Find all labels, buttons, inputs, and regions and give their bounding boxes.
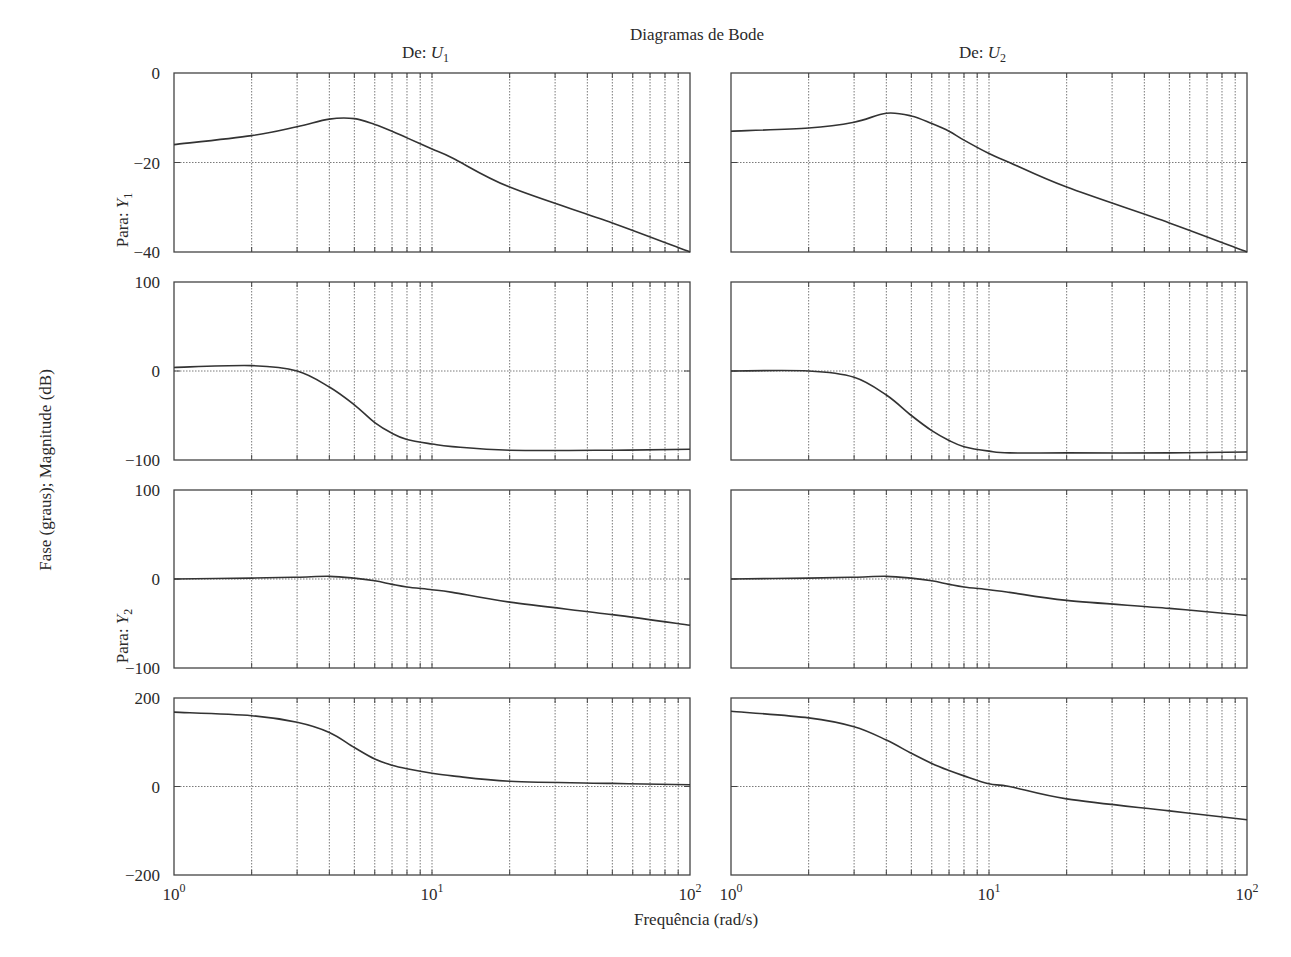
column-label: De: U1 <box>402 43 449 65</box>
bode-chart: 0−20−401000−1001000−1002000−200100101102… <box>0 0 1291 957</box>
y-tick-label: −40 <box>133 243 160 262</box>
x-axis-label: Frequência (rad/s) <box>634 910 758 930</box>
y-axis-label: Fase (graus); Magnitude (dB) <box>36 369 56 571</box>
y-tick-label: −20 <box>133 154 160 173</box>
x-tick-label: 100 <box>163 881 186 904</box>
x-tick-label: 102 <box>1236 881 1259 904</box>
y-tick-label: 100 <box>135 273 161 292</box>
row-label: Para: Y2 <box>113 609 135 664</box>
y-tick-label: −100 <box>125 451 160 470</box>
x-tick-label: 100 <box>720 881 743 904</box>
x-tick-label: 101 <box>421 881 444 904</box>
y-tick-label: −200 <box>125 866 160 885</box>
y-tick-label: 0 <box>152 778 161 797</box>
column-label: De: U2 <box>959 43 1006 65</box>
y-tick-label: 0 <box>152 570 161 589</box>
y-tick-label: 200 <box>135 689 161 708</box>
chart-title: Diagramas de Bode <box>630 25 764 45</box>
y-tick-label: 0 <box>152 64 161 83</box>
y-tick-label: 0 <box>152 362 161 381</box>
row-label: Para: Y1 <box>113 193 135 248</box>
x-tick-label: 101 <box>978 881 1001 904</box>
y-tick-label: 100 <box>135 481 161 500</box>
x-tick-label: 102 <box>679 881 702 904</box>
